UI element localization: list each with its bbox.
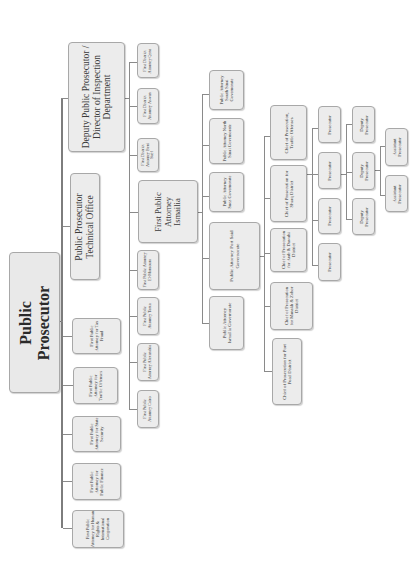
branch-security [63,434,72,435]
node-label: First District Attorney Aswan [143,90,152,123]
stub-ismailiagov [202,323,209,324]
bus-gov-from-ismailia [198,212,202,213]
node-label: First Public Attorney for Tax Fraud [89,319,104,353]
stub-aswan [129,106,137,107]
node-label: Public Attorney South Sinai Governorate [219,72,234,109]
node-deputy-prosecutor-1: Deputy Prosecutor [352,106,375,143]
stub-ismailia [129,212,138,213]
node-human-rights: First Public Attorney for Human Rights &… [72,510,124,548]
node-tax-fraud: First Public Attorney for Tax Fraud [72,318,121,354]
node-chief-traffic: Chief of Prosecution, Traffic Offenses [270,105,307,160]
stub-alexandria [129,362,137,363]
node-gov-north-sinai: Public Attorney North Sinai Governorate [209,118,244,164]
node-assistant-prosecutor-2: Assistant Prosecutor [385,175,408,212]
node-label: Public Prosecutor [17,263,53,383]
trunk-line [61,98,63,528]
bus-level2 [129,62,130,410]
bus-deputies-from-prosecutor [341,174,346,175]
branch-traffic [63,385,73,386]
node-deputy-prosecutor-2: Deputy Prosecutor [352,152,375,190]
node-district-qena: First District Attorney Qena [137,43,159,78]
node-state-security: First Public Attorney for State Security [72,416,121,452]
stub-chief-portfuad [264,371,272,372]
branch-taxfraud [63,336,72,337]
node-label: Public Attorney North Sinai Governorate [221,120,231,163]
bus-assistants [380,146,381,195]
node-label: First Public Attorney for Public Finance [89,465,104,499]
node-first-mansoura: First Public Attorney El-Mansoura [137,250,159,290]
stub-benisuef [129,155,137,156]
node-label: First Public Attorney El-Mansoura [143,252,152,289]
node-prosecutor-4: Prosecutor [318,243,341,281]
node-label: Assistant Prosecutor [391,132,401,162]
node-label: Chief of Prosecution, Traffic Offenses [283,108,294,158]
node-label: First Public Attorney for Traffic Offens… [88,369,103,403]
node-technical-office: Public Prosecutor Technical Office [70,173,100,280]
bus-level2-from-deputy [125,98,129,99]
stub-southsinai [202,94,209,95]
node-label: Assistant Prosecutor [391,179,401,209]
stub-mansoura [129,270,137,271]
node-label: First Public Attorney for State Security [89,417,104,451]
bus-governorates [202,94,203,323]
branch-tech [63,226,70,227]
node-traffic-offenses: First Public Attorney for Traffic Offens… [73,367,118,404]
node-label: Public Attorney Ismailia Governorate [221,301,232,345]
stub-northsinai [202,145,209,146]
node-chief-port-fuad: Chief of Prosecution for Port Fuad Distr… [272,338,302,405]
stub-cairo [129,409,137,410]
node-assistant-prosecutor-1: Assistant Prosecutor [385,128,408,166]
node-label: First Public Attorney Tanta [143,299,152,334]
node-label: Deputy Public Prosecutor / Director of I… [81,45,113,149]
node-chief-manakh: Chief of Prosecution for Manakh & Zohor … [270,282,313,330]
node-gov-ismailia: Public Attorney Ismailia Governorate [209,296,244,350]
node-label: Deputy Prosecutor [358,202,368,232]
node-label: First Public Attorney Alexandria [143,345,152,380]
node-label: Deputy Prosecutor [358,110,368,140]
node-gov-south-sinai: Public Attorney South Sinai Governorate [209,70,244,110]
node-first-ismailia: First Public Attorney Ismailia [138,180,198,243]
node-gov-port-said: Public Attorney Port Said Governorate [209,222,260,290]
node-label: First Public Attorney for Human Rights &… [86,511,111,547]
node-prosecutor-2: Prosecutor [318,152,341,189]
bus-prosecutors [312,128,313,266]
node-public-prosecutor: Public Prosecutor [9,252,60,393]
node-label: Prosecutor [327,108,332,142]
node-district-aswan: First District Attorney Aswan [137,88,159,124]
node-label: First District Attorney Beni Suef [141,139,155,171]
node-label: Chief of Prosecution for Arab & Dawahi D… [281,230,296,270]
stub-suez [202,196,209,197]
branch-finance [63,481,72,482]
node-first-tanta: First Public Attorney Tanta [137,297,159,335]
node-public-finance: First Public Attorney for Public Finance [72,463,121,500]
node-label: Public Attorney Suez Governorate [221,174,231,211]
node-first-cairo: First Public Attorney Cairo [137,390,159,428]
bus-chiefs-from-portsaid [260,256,264,257]
node-label: First Public Attorney Cairo [143,392,152,427]
stub-tanta [129,316,137,317]
node-deputy-prosecutor-3: Deputy Prosecutor [352,198,375,235]
node-label: Public Attorney Port Said Governorate [229,224,240,288]
node-prosecutor-1: Prosecutor [318,106,341,143]
node-label: Chief of Prosecution for Manakh & Zohor … [284,284,299,328]
node-chief-arab: Chief of Prosecution for Arab & Dawahi D… [270,228,307,272]
node-deputy-public-prosecutor: Deputy Public Prosecutor / Director of I… [68,42,125,152]
node-label: Prosecutor [327,245,332,279]
node-prosecutor-3: Prosecutor [318,198,341,234]
node-label: First District Attorney Qena [143,44,152,77]
bus-assistants-from-deputy [375,170,380,171]
node-chief-sharq: Chief of Prosecution for Sharq District [270,165,307,222]
node-label: Deputy Prosecutor [358,156,368,186]
root-connector [60,321,63,322]
node-gov-suez: Public Attorney Suez Governorate [209,172,244,212]
node-label: Chief of Prosecution for Sharq District [283,168,294,220]
stub-portsaid [202,258,209,259]
node-label: First Public Attorney Ismailia [154,183,183,241]
stub-qena [129,62,137,63]
node-label: Prosecutor [327,154,332,188]
node-label: Chief of Prosecution for Port Fuad Distr… [282,341,293,403]
branch-humanrights [63,528,72,529]
node-first-alexandria: First Public Attorney Alexandria [137,343,159,381]
node-label: Prosecutor [327,199,332,233]
node-label: Public Prosecutor Technical Office [74,177,95,277]
